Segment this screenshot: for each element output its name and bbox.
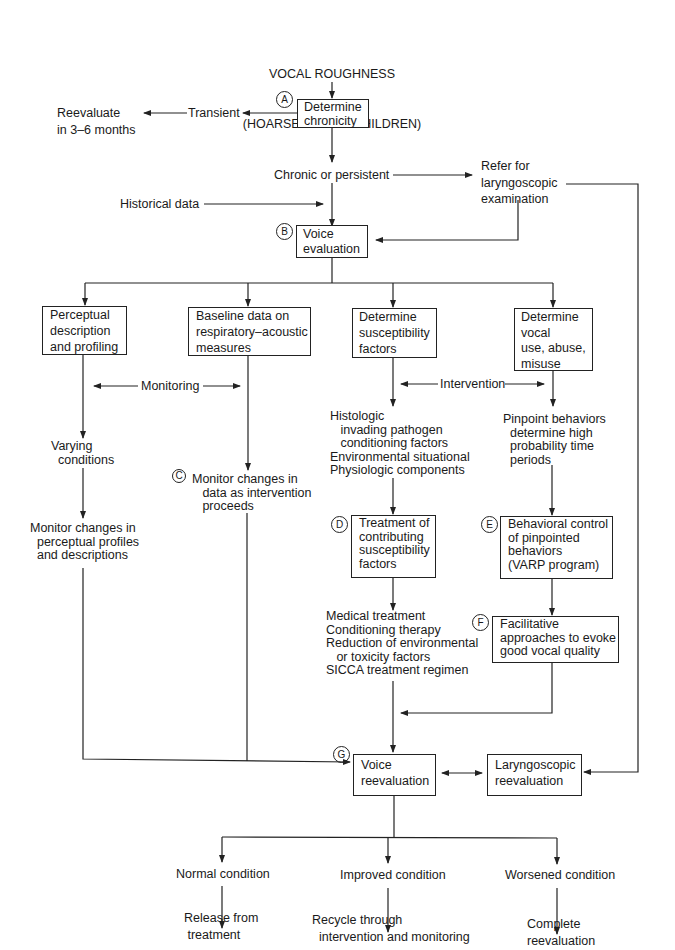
marker-b: B [276,223,293,240]
label-intervention: Intervention [440,376,505,393]
node-treatment-contributing: Treatment of contributing susceptibility… [351,515,436,578]
node-monitor-perceptual-changes: Monitor changes in perceptual profiles a… [30,522,139,563]
marker-g: G [333,746,350,763]
node-baseline-data: Baseline data on respiratory–acoustic me… [188,307,311,356]
node-reevaluate-3-6-months: Reevaluate in 3–6 months [57,105,136,138]
node-voice-reevaluation: Voice reevaluation [353,754,436,796]
node-determine-chronicity: Determine chronicity [297,99,369,128]
node-histologic-factors: Histologic invading pathogen conditionin… [330,410,470,478]
title-line-1: VOCAL ROUGHNESS [240,66,424,83]
node-laryngoscopic-reevaluation: Laryngoscopic reevaluation [487,754,582,796]
node-chronic-persistent: Chronic or persistent [274,167,389,184]
node-determine-vocal-use: Determine vocal use, abuse, misuse [514,308,593,371]
node-varying-conditions: Varying conditions [51,440,114,467]
node-improved-condition: Improved condition [340,867,446,884]
node-behavioral-control: Behavioral control of pinpointed behavio… [500,516,613,579]
marker-e: E [481,516,498,533]
node-medical-treatment: Medical treatment Conditioning therapy R… [326,610,478,678]
label-monitoring: Monitoring [141,378,199,395]
node-pinpoint-behaviors: Pinpoint behaviors determine high probab… [503,413,606,467]
marker-f: F [472,614,489,631]
node-monitor-data-changes: Monitor changes in data as intervention … [192,473,312,514]
marker-d: D [331,516,348,533]
node-normal-condition: Normal condition [176,866,270,883]
node-voice-evaluation: Voice evaluation [296,225,368,258]
marker-c: C [172,469,186,483]
node-worsened-condition: Worsened condition [505,867,615,884]
node-historical-data: Historical data [120,196,199,213]
marker-a: A [276,91,293,108]
node-determine-susceptibility: Determine susceptibility factors [352,308,437,358]
node-perceptual-description: Perceptual description and profiling [42,306,127,355]
node-recycle-intervention: Recycle through intervention and monitor… [312,912,470,946]
node-refer-laryngoscopic: Refer for laryngoscopic examination [481,158,557,208]
node-complete-reevaluation: Complete reevaluation [527,916,595,950]
node-release-from-treatment: Release from treatment [184,910,258,944]
diagram-title: VOCAL ROUGHNESS (HOARSENESS IN CHILDREN) [240,33,424,149]
node-facilitative-approaches: Facilitative approaches to evoke good vo… [492,616,619,663]
node-transient: Transient [188,105,240,122]
